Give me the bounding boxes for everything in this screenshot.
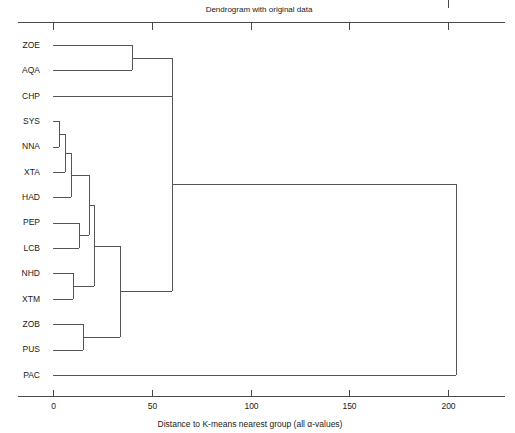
leaf-label-lcb: LCB (23, 243, 40, 253)
x-tick-label: 200 (441, 401, 455, 411)
leaf-label-pac: PAC (23, 370, 40, 380)
leaf-label-pus: PUS (23, 344, 41, 354)
dendrogram-figure: Dendrogram with original data ZOEAQACHPS… (0, 0, 515, 433)
leaf-label-aqa: AQA (22, 65, 40, 75)
leaf-label-had: HAD (22, 192, 40, 202)
leaf-label-zob: ZOB (23, 319, 41, 329)
dendrogram-links (53, 45, 457, 376)
bottom-axis: 050100150200 (18, 390, 505, 411)
x-tick-label: 50 (148, 401, 158, 411)
leaf-label-sys: SYS (23, 116, 40, 126)
dendrogram-canvas: Dendrogram with original data ZOEAQACHPS… (0, 0, 515, 433)
leaf-label-nhd: NHD (22, 268, 40, 278)
leaf-label-zoe: ZOE (23, 40, 41, 50)
leaf-label-nna: NNA (22, 141, 40, 151)
x-axis-title: Distance to K-means nearest group (all α… (158, 419, 343, 429)
leaf-label-chp: CHP (22, 91, 40, 101)
leaf-label-xtm: XTM (22, 294, 40, 304)
x-tick-label: 0 (51, 401, 56, 411)
leaf-label-pep: PEP (23, 217, 40, 227)
leaf-label-xta: XTA (24, 167, 40, 177)
x-tick-label: 150 (342, 401, 356, 411)
leaf-label-group: ZOEAQACHPSYSNNAXTAHADPEPLCBNHDXTMZOBPUSP… (22, 40, 41, 380)
page-title: Dendrogram with original data (206, 5, 313, 14)
top-axis-ticks (54, 23, 449, 31)
bottom-axis-tick-labels: 050100150200 (51, 401, 456, 411)
top-axis (18, 23, 505, 31)
bottom-axis-ticks (54, 390, 449, 397)
x-tick-label: 100 (244, 401, 258, 411)
